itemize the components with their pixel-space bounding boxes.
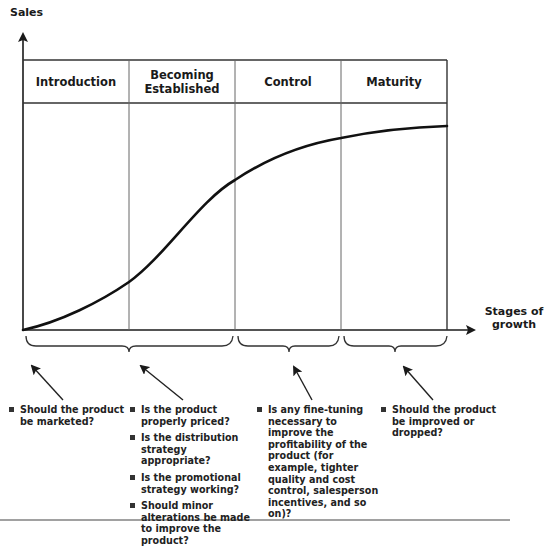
arrow-introduction xyxy=(32,366,63,400)
question-item: Is the promotional strategy working? xyxy=(129,472,259,495)
stage-header-maturity: Maturity xyxy=(341,60,447,103)
brace-maturity xyxy=(344,336,447,352)
y-axis-label: Sales xyxy=(10,6,43,19)
question-item: Is any fine-tuning necessary to improve … xyxy=(256,404,380,520)
arrow-established xyxy=(141,366,183,400)
questions-control: Is any fine-tuning necessary to improve … xyxy=(256,404,380,525)
stage-header-introduction: Introduction xyxy=(23,60,129,103)
x-axis-label: Stages of growth xyxy=(484,305,544,331)
x-axis-label-line1: Stages of xyxy=(484,305,544,318)
questions-becoming-established: Is the product properly priced? Is the d… xyxy=(129,404,259,550)
stage-header-control: Control xyxy=(235,60,341,103)
x-axis-label-line2: growth xyxy=(484,318,544,331)
arrow-control xyxy=(294,367,312,400)
question-item: Should the product be improved or droppe… xyxy=(380,404,510,439)
questions-introduction: Should the product be marketed? xyxy=(8,404,126,432)
brace-introduction-established xyxy=(26,336,233,352)
questions-maturity: Should the product be improved or droppe… xyxy=(380,404,510,444)
stage-header-becoming-established: Becoming Established xyxy=(135,60,229,103)
question-item: Should the product be marketed? xyxy=(8,404,126,427)
arrow-maturity xyxy=(404,367,433,400)
question-item: Is the distribution strategy appropriate… xyxy=(129,432,259,467)
brace-control xyxy=(238,336,339,352)
question-item: Should minor alterations be made to impr… xyxy=(129,500,259,546)
question-item: Is the product properly priced? xyxy=(129,404,259,427)
